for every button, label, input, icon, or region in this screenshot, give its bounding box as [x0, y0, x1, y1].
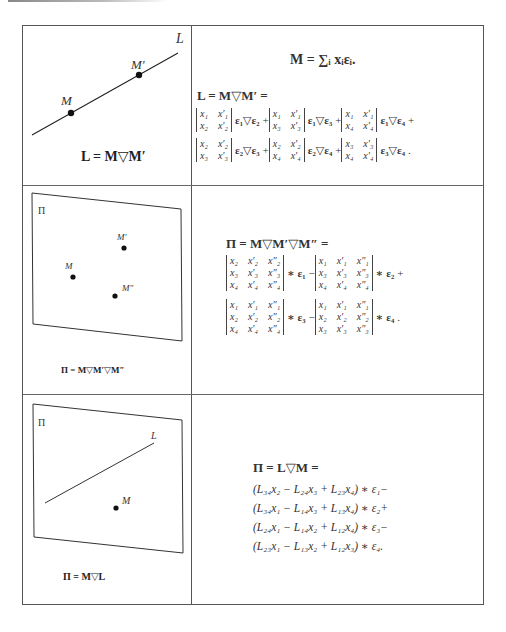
point-label-M: M	[122, 495, 130, 506]
plane-expansion-row-2: x₁x′₁x″₁ x₂x′₂x″₂ x₄x′₄x″₄ ∗ ε₃− x₁x′₁x″…	[226, 295, 403, 339]
point-label-M: M	[61, 93, 72, 109]
point-label-M: M	[65, 261, 73, 271]
line-expansion-row-1: x₁x′₁ x₂x′₂ ε₁▽ε₂+ x₁x′₁ x₃x′₃ ε₁▽ε₃+ x₁…	[196, 105, 414, 135]
line-expansion: x₁x′₁ x₂x′₂ ε₁▽ε₂+ x₁x′₁ x₃x′₃ ε₁▽ε₃+ x₁…	[196, 105, 414, 165]
point-label-M-prime: M′	[117, 232, 126, 242]
plane-label-pi: Π	[38, 205, 45, 216]
determinant: x₁x′₁ x₃x′₃	[269, 108, 305, 132]
point-M	[68, 110, 74, 116]
figure-caption-line: L = M▽M′	[81, 148, 146, 165]
line-expansion-row-2: x₂x′₂ x₃x′₃ ε₂▽ε₃+ x₂x′₂ x₄x′₄ ε₂▽ε₄+ x₃…	[196, 135, 414, 165]
plane-figure-three-points	[32, 193, 182, 341]
determinant: x₃x′₃ x₄x′₄	[341, 138, 377, 162]
expansion-line: (L₂₃x₁ − L₁₃x₂ + L₁₂x₃) ∗ ε₄.	[253, 537, 388, 556]
line-figure	[32, 53, 178, 135]
sum-definition: M = ∑ᵢ xᵢεᵢ.	[290, 52, 356, 68]
expansion-line: (L₃₄x₂ − L₂₄x₃ + L₂₃x₄) ∗ ε₁−	[253, 480, 388, 499]
determinant: x₁x′₁x″₁ x₂x′₂x″₂ x₃x′₃x″₃	[315, 299, 373, 335]
determinant: x₁x′₁x″₁ x₃x′₃x″₃ x₄x′₄x″₄	[315, 255, 373, 291]
plane-expansion: x₂x′₂x″₂ x₃x′₃x″₃ x₄x′₄x″₄ ∗ ε₁− x₁x′₁x″…	[226, 251, 403, 339]
line-label-L: L	[151, 430, 157, 441]
plane-figure-line-point	[33, 404, 183, 553]
figure-caption-plane: Π = M▽M′▽M″	[61, 365, 124, 375]
determinant: x₂x′₂ x₄x′₄	[269, 138, 305, 162]
determinant: x₂x′₂x″₂ x₃x′₃x″₃ x₄x′₄x″₄	[226, 255, 284, 291]
plane-label-pi: Π	[38, 417, 45, 428]
line-label-L: L	[176, 31, 184, 47]
expansion-line: (L₂₄x₁ − L₁₄x₂ + L₁₂x₄) ∗ ε₃−	[253, 518, 388, 537]
figure-caption-plane-line: Π = M▽L	[63, 571, 105, 582]
line-equation-lhs: L = M▽M′ =	[197, 88, 268, 104]
plane-equation-lhs: Π = M▽M′▽M″ =	[226, 236, 328, 252]
plane-line-equation-lhs: Π = L▽M =	[253, 460, 319, 476]
determinant: x₁x′₁ x₂x′₂	[196, 108, 232, 132]
determinant: x₂x′₂ x₃x′₃	[196, 138, 232, 162]
determinant: x₁x′₁ x₄x′₄	[341, 108, 377, 132]
expansion-line: (L₃₄x₁ − L₁₄x₃ + L₁₃x₄) ∗ ε₂+	[253, 499, 388, 518]
plane-expansion-row-1: x₂x′₂x″₂ x₃x′₃x″₃ x₄x′₄x″₄ ∗ ε₁− x₁x′₁x″…	[226, 251, 403, 295]
determinant: x₁x′₁x″₁ x₂x′₂x″₂ x₄x′₄x″₄	[226, 299, 284, 335]
point-label-M-prime: M′	[131, 57, 145, 73]
plane-line-expansion: (L₃₄x₂ − L₂₄x₃ + L₂₃x₄) ∗ ε₁− (L₃₄x₁ − L…	[253, 480, 388, 556]
point-label-M-double-prime: M″	[122, 283, 133, 293]
